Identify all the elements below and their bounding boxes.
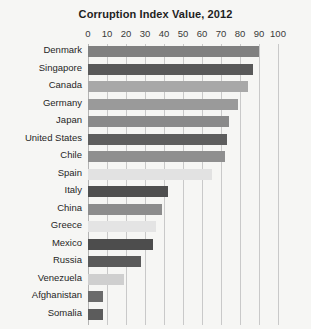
x-tick-label: 60 <box>197 28 208 39</box>
plot-area: DenmarkSingaporeCanadaGermanyJapanUnited… <box>88 44 278 325</box>
category-label: Chile <box>2 149 82 160</box>
bar-row: Greece <box>88 221 278 232</box>
bar <box>88 81 248 92</box>
bar-row: Venezuela <box>88 274 278 285</box>
corruption-index-bar-chart: Corruption Index Value, 2012 01020304050… <box>0 0 311 329</box>
bar <box>88 46 259 57</box>
x-tick-label: 70 <box>216 28 227 39</box>
bar <box>88 186 168 197</box>
bar-row: Chile <box>88 151 278 162</box>
category-label: Japan <box>2 114 82 125</box>
bar <box>88 64 253 75</box>
bar-row: Denmark <box>88 46 278 57</box>
category-label: Greece <box>2 219 82 230</box>
bar-row: Japan <box>88 116 278 127</box>
bar <box>88 151 225 162</box>
x-tick-label: 100 <box>270 28 286 39</box>
x-tick-label: 90 <box>254 28 265 39</box>
bar-row: Singapore <box>88 64 278 75</box>
x-tick-label: 20 <box>121 28 132 39</box>
x-tick-label: 50 <box>178 28 189 39</box>
category-label: China <box>2 202 82 213</box>
category-label: Germany <box>2 97 82 108</box>
bar <box>88 291 103 302</box>
bar-row: Canada <box>88 81 278 92</box>
bar <box>88 309 103 320</box>
x-tick-label: 30 <box>140 28 151 39</box>
category-label: Canada <box>2 79 82 90</box>
bar <box>88 274 124 285</box>
bar <box>88 239 153 250</box>
category-label: Somalia <box>2 307 82 318</box>
category-label: United States <box>2 132 82 143</box>
gridline <box>278 44 279 325</box>
bar <box>88 256 141 267</box>
bar-row: Somalia <box>88 309 278 320</box>
bar <box>88 169 212 180</box>
category-label: Italy <box>2 184 82 195</box>
x-tick-label: 40 <box>159 28 170 39</box>
bar-row: Afghanistan <box>88 291 278 302</box>
category-label: Spain <box>2 167 82 178</box>
bar-row: China <box>88 204 278 215</box>
x-axis: 0102030405060708090100 <box>88 28 278 44</box>
category-label: Russia <box>2 254 82 265</box>
bar <box>88 116 229 127</box>
category-label: Denmark <box>2 44 82 55</box>
category-label: Afghanistan <box>2 289 82 300</box>
bar-row: Mexico <box>88 239 278 250</box>
bar-row: Italy <box>88 186 278 197</box>
bar-row: Spain <box>88 169 278 180</box>
chart-title: Corruption Index Value, 2012 <box>0 8 311 20</box>
bar <box>88 134 227 145</box>
x-tick-label: 80 <box>235 28 246 39</box>
x-tick-label: 10 <box>102 28 113 39</box>
bar-row: Russia <box>88 256 278 267</box>
bar <box>88 99 238 110</box>
category-label: Mexico <box>2 237 82 248</box>
bar-row: Germany <box>88 99 278 110</box>
bar <box>88 221 156 232</box>
x-tick-label: 0 <box>85 28 90 39</box>
category-label: Venezuela <box>2 272 82 283</box>
bar <box>88 204 162 215</box>
bar-row: United States <box>88 134 278 145</box>
category-label: Singapore <box>2 62 82 73</box>
